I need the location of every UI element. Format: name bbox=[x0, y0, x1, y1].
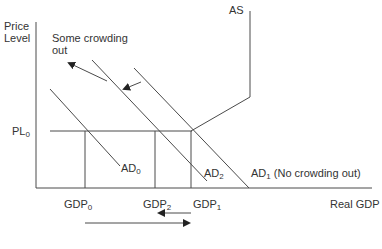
ad0-label-text: AD bbox=[121, 162, 136, 174]
gdp2-label: GDP2 bbox=[143, 198, 171, 210]
pl0-label-text: PL bbox=[12, 125, 25, 137]
ad1-label-text: AD bbox=[251, 167, 266, 179]
gdp1-label-text: GDP bbox=[193, 198, 217, 210]
ad2-label-subscript: 2 bbox=[219, 172, 223, 181]
y-axis-label: Price Level bbox=[4, 20, 30, 44]
as-curve bbox=[191, 11, 250, 131]
y-axis-label-line2: Level bbox=[4, 32, 30, 44]
as-label: AS bbox=[229, 4, 244, 16]
gdp0-label-text: GDP bbox=[64, 198, 88, 210]
ad1-label: AD1 (No crowding out) bbox=[251, 167, 361, 179]
gdp0-label-subscript: 0 bbox=[88, 203, 92, 212]
gdp2-label-subscript: 2 bbox=[167, 203, 171, 212]
ad2-curve bbox=[92, 60, 207, 181]
gdp1-label-subscript: 1 bbox=[217, 203, 221, 212]
crowding-out-arrow bbox=[69, 63, 107, 81]
shift-back-arrow bbox=[124, 82, 141, 89]
crowding-out-diagram: Price Level Some crowding out AS PL0 AD0… bbox=[0, 0, 382, 249]
x-axis-label: Real GDP bbox=[330, 198, 380, 210]
ad2-label: AD2 bbox=[204, 167, 224, 179]
pl0-label: PL0 bbox=[12, 125, 30, 137]
ad2-label-text: AD bbox=[204, 167, 219, 179]
pl0-label-subscript: 0 bbox=[25, 130, 29, 139]
x-axis-label-text: Real GDP bbox=[330, 198, 380, 210]
ad0-label: AD0 bbox=[121, 162, 141, 174]
as-label-text: AS bbox=[229, 4, 244, 16]
ad1-label-note: (No crowding out) bbox=[271, 167, 361, 179]
gdp1-label: GDP1 bbox=[193, 198, 221, 210]
crowding-label-line1: Some crowding bbox=[52, 32, 128, 44]
crowding-out-label: Some crowding out bbox=[52, 32, 128, 56]
gdp2-label-text: GDP bbox=[143, 198, 167, 210]
gdp0-label: GDP0 bbox=[64, 198, 92, 210]
y-axis-label-line1: Price bbox=[4, 20, 30, 32]
ad0-label-subscript: 0 bbox=[136, 167, 140, 176]
crowding-label-line2: out bbox=[52, 44, 128, 56]
